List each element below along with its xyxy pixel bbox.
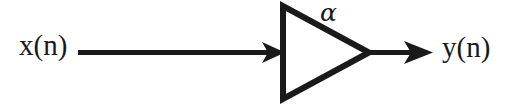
output-signal-label: y(n) (442, 33, 490, 62)
diagram-graphics (0, 0, 513, 108)
input-signal-label: x(n) (19, 31, 67, 60)
block-diagram-canvas: x(n) α y(n) (0, 0, 513, 108)
gain-label: α (320, 0, 337, 25)
